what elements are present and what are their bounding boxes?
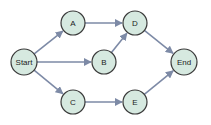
node-label: Start [16, 58, 34, 67]
edge-start-c [34, 70, 63, 94]
node-c: C [61, 90, 85, 114]
node-label: C [70, 98, 76, 107]
flow-diagram: StartABCDEEnd [0, 0, 211, 125]
node-label: End [177, 58, 191, 67]
edge-d-end [144, 30, 173, 53]
node-b: B [92, 50, 116, 74]
node-label: B [101, 58, 106, 67]
node-label: E [132, 98, 137, 107]
node-e: E [123, 90, 147, 114]
node-end: End [171, 49, 197, 75]
node-label: D [132, 19, 138, 28]
node-d: D [123, 11, 147, 35]
node-label: A [70, 19, 76, 28]
edge-b-d [111, 33, 126, 52]
node-start: Start [11, 49, 37, 75]
node-a: A [61, 11, 85, 35]
edge-e-end [144, 71, 173, 95]
edge-start-a [34, 31, 63, 54]
